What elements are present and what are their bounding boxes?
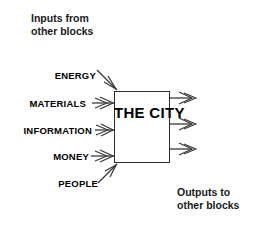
input-arrow-materials — [92, 97, 114, 109]
output-arrow-1 — [170, 92, 196, 104]
input-arrow-money — [91, 150, 114, 162]
input-arrow-energy — [97, 70, 117, 90]
diagram-canvas: Inputs from other blocks ENERGY MATERIAL… — [0, 0, 272, 226]
input-arrow-people — [98, 164, 117, 183]
outputs-caption: Outputs to other blocks — [177, 186, 239, 212]
input-arrow-information — [95, 124, 114, 136]
output-arrow-2 — [170, 118, 196, 130]
output-arrow-3 — [170, 143, 196, 155]
